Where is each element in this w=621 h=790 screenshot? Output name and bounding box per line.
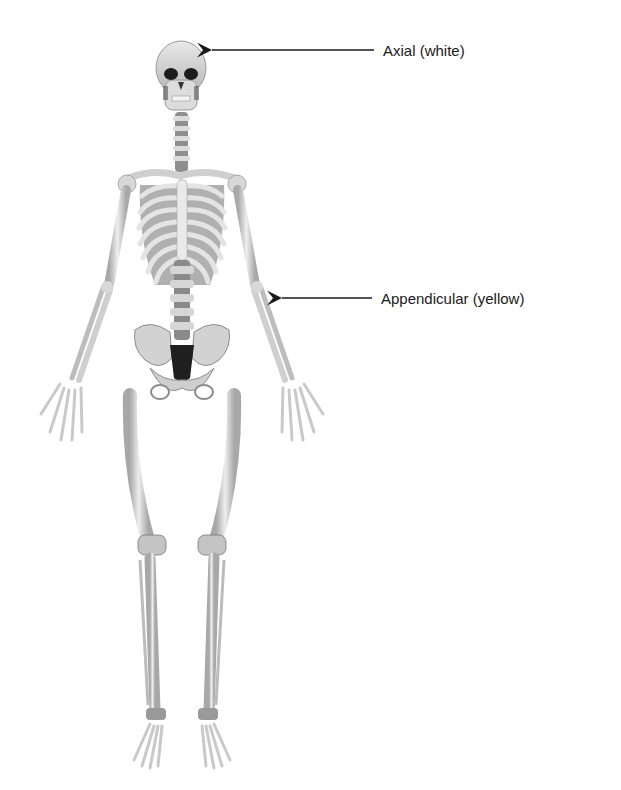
cervical-spine <box>173 112 190 172</box>
left-leg <box>198 395 234 768</box>
left-arm <box>238 190 323 440</box>
lumbar-spine <box>170 260 194 340</box>
right-leg <box>130 395 166 768</box>
skeleton-diagram <box>0 0 621 790</box>
axial-label: Axial (white) <box>383 42 465 59</box>
appendicular-label: Appendicular (yellow) <box>381 290 524 307</box>
right-arm <box>41 190 126 440</box>
skull <box>156 41 206 110</box>
